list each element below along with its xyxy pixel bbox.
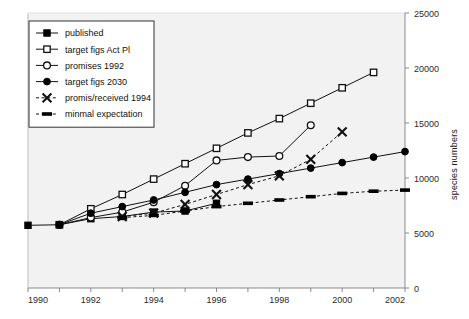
marker-thick-dash [212, 205, 222, 209]
legend-item-label: target figs Act Pl [65, 45, 130, 55]
marker-open-square [370, 69, 376, 75]
marker-thick-dash [117, 216, 127, 220]
marker-open-square [276, 115, 282, 121]
marker-open-square [119, 191, 125, 197]
marker-open-circle [307, 122, 314, 129]
marker-open-square [339, 85, 345, 91]
x-tick-label: 1994 [144, 295, 164, 305]
marker-filled-circle [44, 78, 51, 85]
x-tick-label: 1996 [206, 295, 226, 305]
marker-thick-dash [306, 195, 316, 199]
marker-open-square [213, 145, 219, 151]
legend-item-label: promis/received 1994 [65, 93, 151, 103]
y-tick-label: 25000 [414, 9, 439, 19]
marker-thick-dash [243, 202, 253, 206]
y-tick-label: 0 [414, 284, 419, 294]
y-tick-label: 10000 [414, 174, 439, 184]
chart-page: 1990199219941996199820002002 05000100001… [0, 0, 469, 319]
y-axis-title: species numbers [449, 129, 459, 200]
marker-thick-dash [42, 112, 52, 116]
marker-open-square [150, 176, 156, 182]
marker-thick-dash [369, 189, 379, 193]
legend-item-label: minmal expectation [65, 109, 143, 119]
marker-thick-dash [274, 198, 284, 202]
marker-open-circle [44, 62, 51, 69]
x-tick-label: 2000 [332, 295, 352, 305]
marker-thick-dash [149, 214, 159, 218]
marker-thick-dash [337, 192, 347, 196]
marker-filled-circle [307, 165, 314, 172]
legend-item-label: promises 1992 [65, 61, 124, 71]
y-tick-label: 15000 [414, 119, 439, 129]
marker-filled-circle [87, 210, 94, 217]
marker-open-square [308, 100, 314, 106]
marker-open-circle [276, 153, 283, 160]
y-tick-label: 5000 [414, 229, 434, 239]
x-tick-label: 1998 [269, 295, 289, 305]
marker-filled-circle [402, 148, 409, 155]
chart-legend[interactable]: publishedtarget figs Act Plpromises 1992… [29, 21, 154, 127]
marker-filled-circle [370, 154, 377, 161]
marker-thick-dash [180, 209, 190, 213]
legend-item-label: target figs 2030 [65, 77, 127, 87]
x-axis-tick-labels: 1990199219941996199820002002 [28, 295, 405, 305]
species-numbers-line-chart: 1990199219941996199820002002 05000100001… [0, 0, 469, 319]
marker-filled-square [44, 30, 50, 36]
y-tick-label: 20000 [414, 64, 439, 74]
marker-open-square [44, 46, 50, 52]
marker-filled-circle [182, 189, 189, 196]
marker-filled-circle [213, 181, 220, 188]
marker-filled-square [25, 222, 31, 228]
marker-open-square [182, 161, 188, 167]
marker-open-circle [213, 157, 220, 164]
x-tick-label: 2002 [385, 295, 405, 305]
x-tick-label: 1992 [81, 295, 101, 305]
legend-item-label: published [65, 28, 104, 38]
marker-filled-circle [56, 221, 63, 228]
marker-filled-circle [119, 203, 126, 210]
marker-open-square [245, 130, 251, 136]
marker-thick-dash [400, 188, 410, 192]
marker-filled-circle [150, 197, 157, 204]
x-tick-label: 1990 [28, 295, 48, 305]
marker-filled-circle [339, 159, 346, 166]
marker-open-circle [182, 182, 189, 189]
marker-open-circle [245, 154, 252, 161]
